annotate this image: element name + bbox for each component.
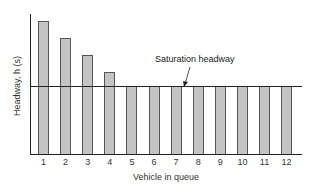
headway-bar-chart: Headway, h (s) 123456789101112 Vehicle i… [0,0,310,192]
annotation-arrow-icon [0,0,310,192]
